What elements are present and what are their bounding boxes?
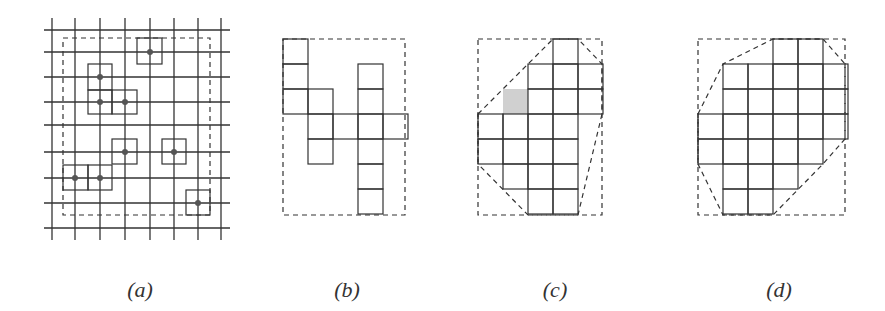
label-c: (c) xyxy=(543,277,567,303)
sample-point xyxy=(97,99,103,105)
label-d: (d) xyxy=(766,277,792,303)
cell xyxy=(748,189,773,214)
cell xyxy=(823,89,848,114)
cell xyxy=(358,189,383,214)
cell xyxy=(578,64,603,89)
sample-point xyxy=(147,49,153,55)
cell xyxy=(358,114,383,139)
cell xyxy=(723,114,748,139)
cell xyxy=(283,39,308,64)
cell xyxy=(478,114,503,139)
sample-point xyxy=(97,74,103,80)
figure-canvas xyxy=(0,0,885,311)
panel-a-grid-with-points xyxy=(44,18,230,240)
sample-point xyxy=(195,200,201,206)
cell xyxy=(358,139,383,164)
cell xyxy=(308,114,333,139)
cell xyxy=(773,89,798,114)
cell xyxy=(748,89,773,114)
cell xyxy=(528,89,553,114)
panel-b-cell-shape xyxy=(283,39,408,215)
cell xyxy=(283,64,308,89)
sample-point xyxy=(97,175,103,181)
cell xyxy=(333,114,358,139)
cell xyxy=(823,114,848,139)
cell xyxy=(528,64,553,89)
cell xyxy=(798,114,823,139)
cell xyxy=(553,39,578,64)
cell xyxy=(503,114,528,139)
sample-point xyxy=(72,175,78,181)
cell xyxy=(698,114,723,139)
label-a: (a) xyxy=(127,277,153,303)
cell xyxy=(798,64,823,89)
cell xyxy=(723,64,748,89)
cell xyxy=(723,164,748,189)
cell xyxy=(823,64,848,89)
cell xyxy=(723,189,748,214)
cell xyxy=(528,114,553,139)
cell xyxy=(748,114,773,139)
cell xyxy=(553,114,578,139)
cell xyxy=(578,89,603,114)
sample-point xyxy=(171,149,177,155)
cell xyxy=(553,89,578,114)
cell xyxy=(773,39,798,64)
cell xyxy=(748,139,773,164)
label-b: (b) xyxy=(334,277,360,303)
cell xyxy=(773,114,798,139)
cell xyxy=(308,139,333,164)
cell xyxy=(723,139,748,164)
cell xyxy=(773,139,798,164)
cell xyxy=(798,89,823,114)
cell xyxy=(528,189,553,214)
cell xyxy=(283,89,308,114)
cell xyxy=(773,164,798,189)
cell xyxy=(798,139,823,164)
cell xyxy=(528,139,553,164)
cell xyxy=(358,89,383,114)
cell xyxy=(553,189,578,214)
panel-d-convex-filled-shape xyxy=(698,39,848,215)
cell xyxy=(698,139,723,164)
cell xyxy=(478,139,503,164)
highlighted-cell xyxy=(503,89,528,114)
cell xyxy=(528,164,553,189)
cell xyxy=(798,39,823,64)
cell xyxy=(748,164,773,189)
bounding-box-dashed xyxy=(283,39,405,215)
panel-c-filled-shape-with-hull xyxy=(478,39,603,215)
sample-point xyxy=(122,99,128,105)
cell xyxy=(748,64,773,89)
cell xyxy=(723,89,748,114)
cell xyxy=(358,164,383,189)
cell xyxy=(553,164,578,189)
cell xyxy=(383,114,408,139)
cell xyxy=(553,64,578,89)
cell xyxy=(503,164,528,189)
cell xyxy=(308,89,333,114)
sample-point xyxy=(122,149,128,155)
cell xyxy=(553,139,578,164)
cell xyxy=(773,64,798,89)
cell xyxy=(503,139,528,164)
cell xyxy=(358,64,383,89)
